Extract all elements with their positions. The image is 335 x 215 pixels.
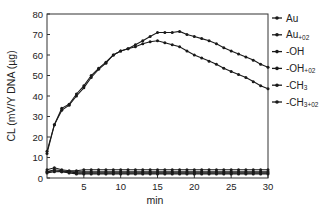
y-tick-label: 30: [32, 111, 43, 122]
data-point: [193, 171, 196, 174]
legend-dot-marker-icon: [275, 83, 279, 87]
data-point: [237, 168, 240, 171]
data-point: [215, 168, 218, 171]
data-point: [127, 171, 130, 174]
data-point: [267, 171, 270, 174]
y-tick-label: 0: [38, 173, 43, 184]
data-point: [134, 43, 137, 46]
data-point: [185, 49, 188, 52]
data-point: [230, 70, 233, 73]
data-point: [149, 168, 152, 171]
data-point: [53, 166, 56, 169]
data-point: [208, 60, 211, 63]
data-point: [252, 168, 255, 171]
data-point: [230, 171, 233, 174]
data-point: [141, 39, 144, 42]
data-point: [178, 171, 181, 174]
y-axis-title: CL (mV/Y DNA (µg): [5, 50, 17, 141]
data-point: [171, 171, 174, 174]
data-point: [244, 56, 247, 59]
series-oh: [46, 39, 270, 155]
legend-dot-marker-icon: [275, 100, 279, 104]
series-line: [47, 41, 268, 154]
data-point: [90, 171, 93, 174]
y-tick-label: 50: [32, 70, 43, 81]
data-point: [222, 46, 225, 49]
y-tick-label: 70: [32, 29, 43, 40]
data-point: [119, 171, 122, 174]
data-point: [259, 168, 262, 171]
data-point: [185, 171, 188, 174]
legend-item: Au+02: [272, 29, 310, 41]
data-point: [171, 168, 174, 171]
x-tick-label: 20: [189, 181, 200, 192]
data-point: [127, 168, 130, 171]
data-point: [141, 168, 144, 171]
data-point: [252, 171, 255, 174]
data-point: [200, 37, 203, 40]
data-point: [163, 31, 166, 34]
data-point: [163, 171, 166, 174]
data-point: [141, 171, 144, 174]
legend: AuAu+02-OH-OH+02-CH3-CH3+02: [272, 13, 319, 109]
x-tick-label: 25: [226, 181, 237, 192]
data-point: [104, 61, 107, 64]
data-point: [156, 31, 159, 34]
data-point: [156, 39, 159, 42]
y-tick-label: 40: [32, 91, 43, 102]
data-point: [68, 103, 71, 106]
legend-item: -CH3+02: [272, 97, 319, 109]
data-point: [267, 168, 270, 171]
line-chart: 01020304050607080 51015202530 min CL (mV…: [0, 0, 335, 215]
plot-frame: [47, 14, 268, 178]
legend-dot-marker-icon: [275, 67, 279, 71]
data-point: [112, 168, 115, 171]
data-point: [171, 31, 174, 34]
data-point: [259, 171, 262, 174]
legend-dot-marker-icon: [275, 16, 279, 20]
y-axis: 01020304050607080: [32, 9, 50, 184]
legend-label: -CH3+02: [286, 97, 319, 109]
x-tick-label: 30: [263, 181, 274, 192]
plot-area-border: [47, 14, 268, 178]
data-point: [230, 168, 233, 171]
data-point: [193, 54, 196, 57]
data-point: [178, 45, 181, 48]
legend-label: -OH+02: [286, 63, 316, 75]
data-point: [244, 168, 247, 171]
data-point: [222, 67, 225, 70]
data-point: [53, 169, 56, 172]
data-point: [244, 76, 247, 79]
data-point: [200, 171, 203, 174]
data-point: [97, 171, 100, 174]
data-point: [134, 171, 137, 174]
data-point: [46, 150, 49, 153]
data-point: [82, 84, 85, 87]
data-point: [104, 171, 107, 174]
data-point: [193, 35, 196, 38]
data-point: [90, 74, 93, 77]
legend-item: -OH: [272, 46, 304, 57]
series-layer: [46, 30, 270, 175]
legend-item: Au: [272, 13, 298, 24]
data-point: [82, 171, 85, 174]
data-point: [252, 80, 255, 83]
legend-item: -CH3: [272, 80, 308, 92]
data-point: [82, 168, 85, 171]
data-point: [163, 168, 166, 171]
data-point: [230, 49, 233, 52]
data-point: [149, 40, 152, 43]
data-point: [208, 39, 211, 42]
data-point: [163, 41, 166, 44]
data-point: [112, 171, 115, 174]
data-point: [208, 171, 211, 174]
data-point: [141, 42, 144, 45]
data-point: [215, 63, 218, 66]
data-point: [259, 84, 262, 87]
data-point: [244, 171, 247, 174]
data-point: [237, 171, 240, 174]
legend-label: Au: [286, 13, 298, 24]
legend-dot-marker-icon: [275, 50, 279, 54]
y-tick-label: 10: [32, 152, 43, 163]
data-point: [156, 168, 159, 171]
